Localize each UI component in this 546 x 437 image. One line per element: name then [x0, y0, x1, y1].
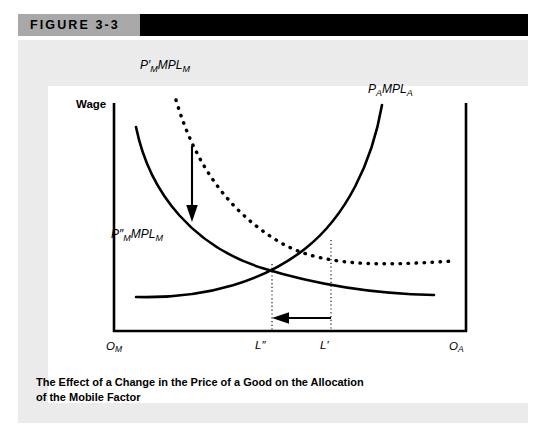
- axis-tick-label-l-prime: L′: [320, 339, 329, 351]
- axis-label-origin-a: OA: [449, 340, 464, 354]
- axis-tick-label-l-double-prime: L″: [255, 339, 265, 351]
- figure-caption: The Effect of a Change in the Price of a…: [36, 375, 466, 404]
- y-axis-label: Wage: [76, 98, 106, 110]
- caption-line-2: of the Mobile Factor: [36, 390, 466, 405]
- curve-label-agriculture: PAMPLA: [368, 82, 413, 98]
- figure-root: FIGURE 3-3 Wage: [0, 0, 546, 437]
- curve-label-text-2: PAMPLA: [368, 82, 413, 96]
- axis-label-text-om: OM: [106, 340, 122, 352]
- plot-area: [48, 86, 531, 403]
- axis-label-text-oa: OA: [449, 340, 464, 352]
- figure-number-label: FIGURE 3-3: [18, 14, 140, 36]
- curve-label-manufacturing-after: P″MMPLM: [111, 227, 163, 243]
- axis-tick-text-0: L″: [255, 339, 265, 351]
- curve-label-text-1: P″MMPLM: [111, 227, 163, 241]
- curve-label-manufacturing-initial: P′MMPLM: [140, 58, 190, 74]
- caption-line-1: The Effect of a Change in the Price of a…: [36, 375, 466, 390]
- curve-label-text-0: P′MMPLM: [140, 58, 190, 72]
- figure-header-bar: FIGURE 3-3: [18, 14, 528, 36]
- axis-label-origin-m: OM: [106, 340, 122, 354]
- axis-tick-text-1: L′: [320, 339, 329, 351]
